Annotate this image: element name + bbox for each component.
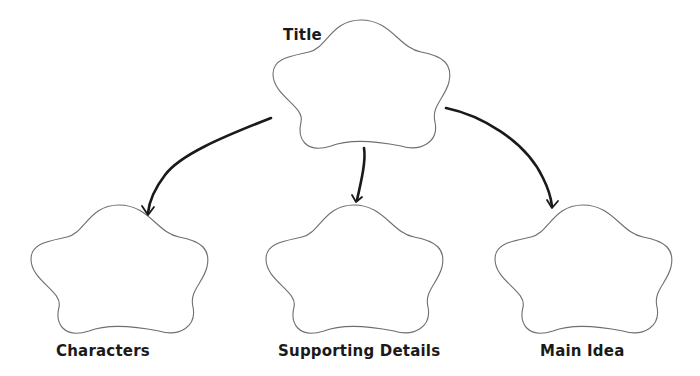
cloud-main-idea [495, 205, 672, 333]
arrow-to-main-idea [446, 108, 558, 208]
label-supporting-details: Supporting Details [278, 342, 440, 360]
organizer-canvas [0, 0, 700, 376]
label-main-idea: Main Idea [540, 342, 625, 360]
cloud-characters [31, 205, 208, 333]
label-title: Title [283, 26, 322, 44]
arrow-to-characters [142, 118, 271, 215]
cloud-supporting-details [266, 205, 443, 333]
arrow-to-supporting-details [352, 148, 365, 202]
label-characters: Characters [56, 342, 150, 360]
